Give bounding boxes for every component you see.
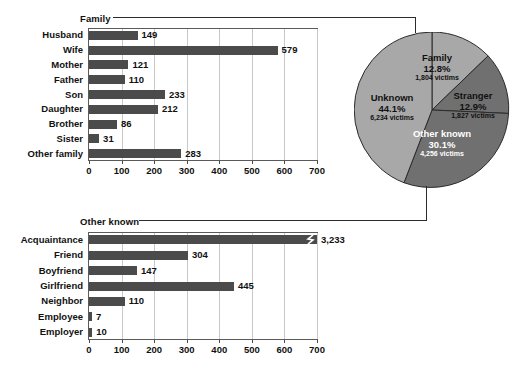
gridline [317, 233, 318, 339]
category-label: Father [0, 75, 83, 85]
bar[interactable] [89, 31, 138, 40]
axis-tick [317, 161, 318, 164]
bar-value-label: 110 [129, 296, 144, 306]
category-label: Sister [0, 134, 83, 144]
axis-tick [252, 340, 253, 343]
bar[interactable] [89, 120, 117, 129]
bar[interactable] [89, 297, 125, 306]
family-panel-title: Family [80, 13, 111, 24]
category-label: Husband [0, 30, 83, 40]
bar-value-label: 233 [169, 90, 185, 100]
bar[interactable] [89, 46, 278, 55]
bar-value-label: 149 [142, 30, 158, 40]
family-connector-horizontal [113, 17, 416, 18]
category-label: Employee [0, 312, 83, 322]
family-connector-vertical [415, 17, 416, 33]
bar-value-label: 31 [103, 134, 114, 144]
category-label: Employer [0, 327, 83, 337]
bar[interactable] [89, 60, 128, 69]
bar-value-label: 579 [282, 45, 298, 55]
bar-value-label: 147 [141, 266, 157, 276]
bar-value-label: 10 [96, 327, 107, 337]
bar[interactable] [89, 266, 137, 275]
other-known-connector-vertical [426, 186, 427, 221]
bar-value-label: 110 [129, 75, 144, 85]
pie-label-other-known: Other known 30.1% 4,256 victims [400, 128, 484, 159]
bar-value-label: 283 [185, 149, 201, 159]
bar[interactable] [89, 105, 158, 114]
axis-tick-label: 700 [297, 345, 337, 355]
axis-tick-label: 700 [297, 166, 337, 176]
bar-value-label: 304 [192, 250, 208, 260]
zigzag-break-icon [306, 235, 316, 244]
bar[interactable] [89, 328, 92, 337]
bar[interactable] [89, 149, 181, 158]
bar[interactable] [89, 282, 234, 291]
axis-tick [219, 340, 220, 343]
axis-tick [154, 340, 155, 343]
bar[interactable] [89, 75, 125, 84]
axis-tick [89, 340, 90, 343]
axis-tick [154, 161, 155, 164]
category-label: Son [0, 90, 83, 100]
relationship-pie-chart: Family 12.8% 1,804 victims Stranger 12.9… [354, 32, 510, 188]
bar[interactable] [89, 90, 165, 99]
other-known-connector-horizontal [139, 220, 427, 221]
other-known-panel-title: Other known [80, 216, 139, 227]
category-label: Acquaintance [0, 235, 83, 245]
category-label: Friend [0, 250, 83, 260]
pie-label-stranger: Stranger 12.9% 1,827 victims [438, 90, 508, 121]
axis-tick [219, 161, 220, 164]
bar[interactable] [89, 312, 92, 321]
category-label: Wife [0, 45, 83, 55]
bar-value-label: 86 [121, 119, 132, 129]
category-label: Boyfriend [0, 266, 83, 276]
axis-tick [89, 161, 90, 164]
bar-value-label: 445 [238, 281, 254, 291]
axis-tick [317, 340, 318, 343]
category-label: Brother [0, 119, 83, 129]
pie-label-unknown: Unknown 44.1% 6,234 victims [356, 92, 428, 123]
category-label: Daughter [0, 104, 83, 114]
pie-label-family: Family 12.8% 1,804 victims [400, 52, 474, 83]
bar[interactable] [89, 134, 99, 143]
category-label: Girlfriend [0, 281, 83, 291]
axis-tick [284, 340, 285, 343]
bar[interactable] [89, 251, 188, 260]
bar[interactable] [89, 235, 317, 244]
gridline [317, 29, 318, 160]
axis-tick [122, 161, 123, 164]
category-label: Neighbor [0, 296, 83, 306]
category-label: Mother [0, 60, 83, 70]
category-label: Other family [0, 149, 83, 159]
axis-tick [187, 161, 188, 164]
axis-tick [187, 340, 188, 343]
bar-value-label: 212 [162, 104, 178, 114]
gridline [284, 233, 285, 339]
bar-value-label: 121 [132, 60, 148, 70]
axis-tick [122, 340, 123, 343]
axis-tick [284, 161, 285, 164]
bar-value-label: 7 [96, 312, 101, 322]
axis-tick [252, 161, 253, 164]
bar-value-label: 3,233 [321, 235, 345, 245]
